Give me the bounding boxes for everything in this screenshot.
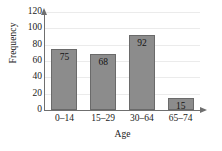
x-axis-line xyxy=(44,110,201,111)
y-axis-line xyxy=(44,14,45,110)
bar-value-label: 75 xyxy=(52,52,76,62)
x-axis-title: Age xyxy=(45,129,200,139)
bar-chart: Frequency 020406080100120 75689215 0–141… xyxy=(0,0,222,151)
bar: 75 xyxy=(51,49,77,110)
x-axis-tick-label: 15–29 xyxy=(84,113,123,124)
y-axis-tick-label: 60 xyxy=(16,56,42,66)
y-axis-arrow-icon xyxy=(41,8,47,15)
x-axis-tick-labels: 0–1415–2930–6465–74 xyxy=(45,113,200,127)
x-axis-tick-label: 65–74 xyxy=(161,113,200,124)
y-axis-tick-label: 20 xyxy=(16,89,42,99)
gridline xyxy=(45,28,200,29)
bar-value-label: 68 xyxy=(91,57,115,67)
bar: 92 xyxy=(129,35,155,110)
x-axis-tick-label: 30–64 xyxy=(123,113,162,124)
gridline xyxy=(45,12,200,13)
gridline xyxy=(45,45,200,46)
x-axis-tick-label: 0–14 xyxy=(45,113,84,124)
y-axis-tick-label: 80 xyxy=(16,40,42,50)
y-axis-tick-label: 100 xyxy=(16,24,42,34)
bar: 15 xyxy=(168,98,194,110)
bar-value-label: 92 xyxy=(130,38,154,48)
bar: 68 xyxy=(90,54,116,110)
y-axis-tick-label: 120 xyxy=(16,7,42,17)
y-axis-tick-label: 0 xyxy=(16,105,42,115)
x-axis-arrow-icon xyxy=(200,107,207,113)
y-axis-tick-label: 40 xyxy=(16,73,42,83)
plot-area: 75689215 xyxy=(45,12,200,110)
y-axis-tick-labels: 020406080100120 xyxy=(16,0,42,151)
